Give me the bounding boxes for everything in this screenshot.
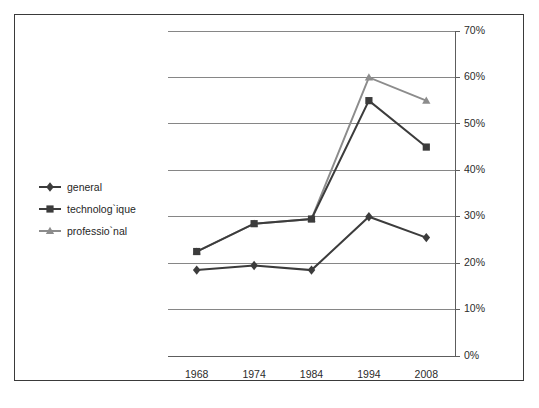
y-tick-label: 50% bbox=[464, 117, 485, 129]
legend-swatch-marker bbox=[46, 205, 53, 212]
gridlines-group bbox=[168, 31, 455, 356]
x-tick-labels-group: 19681974198419942008 bbox=[185, 368, 438, 380]
x-tick-label: 1984 bbox=[300, 368, 324, 380]
data-point-marker bbox=[193, 265, 201, 274]
axes-group bbox=[168, 31, 460, 356]
y-tick-label: 10% bbox=[464, 302, 485, 314]
data-point-marker bbox=[250, 261, 258, 270]
y-tick-labels-group: 0%10%20%30%40%50%60%70% bbox=[464, 24, 485, 361]
x-tick-label: 1994 bbox=[357, 368, 381, 380]
legend-item-professional[interactable]: professio`nal bbox=[39, 225, 127, 237]
legend-item-technologique[interactable]: technolog`ique bbox=[39, 203, 136, 215]
legend-swatch-marker bbox=[46, 182, 54, 191]
legend-item-label: technolog`ique bbox=[67, 203, 136, 215]
figure-caption bbox=[16, 393, 521, 408]
chart-frame: 0%10%20%30%40%50%60%70% 1968197419841994… bbox=[14, 14, 524, 381]
series-line bbox=[197, 101, 427, 252]
x-tick-label: 1974 bbox=[242, 368, 266, 380]
line-chart: 0%10%20%30%40%50%60%70% 1968197419841994… bbox=[15, 15, 525, 382]
series-technologique bbox=[193, 97, 430, 255]
series-professional bbox=[193, 73, 431, 254]
data-point-marker bbox=[308, 215, 315, 222]
y-tick-label: 40% bbox=[464, 163, 485, 175]
data-point-marker bbox=[251, 220, 258, 227]
legend-item-general[interactable]: general bbox=[39, 181, 102, 193]
x-tick-label: 2008 bbox=[415, 368, 439, 380]
legend-item-label: professio`nal bbox=[67, 225, 127, 237]
series-line bbox=[197, 217, 427, 270]
y-tick-label: 20% bbox=[464, 256, 485, 268]
x-tick-label: 1968 bbox=[185, 368, 209, 380]
series-group bbox=[193, 73, 431, 274]
y-tick-label: 60% bbox=[464, 70, 485, 82]
data-point-marker bbox=[193, 248, 200, 255]
data-point-marker bbox=[423, 143, 430, 150]
y-tick-label: 0% bbox=[464, 349, 479, 361]
y-tick-label: 70% bbox=[464, 24, 485, 36]
data-point-marker bbox=[423, 233, 431, 242]
legend-group: generaltechnolog`iqueprofessio`nal bbox=[39, 181, 136, 237]
y-tick-label: 30% bbox=[464, 209, 485, 221]
data-point-marker bbox=[365, 73, 373, 80]
data-point-marker bbox=[365, 97, 372, 104]
legend-item-label: general bbox=[67, 181, 102, 193]
